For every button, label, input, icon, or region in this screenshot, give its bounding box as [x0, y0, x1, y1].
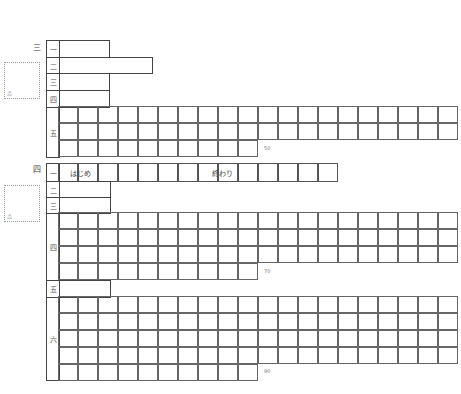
grid-cell[interactable]	[398, 229, 418, 246]
grid-cell[interactable]	[58, 123, 78, 140]
grid-cell[interactable]	[98, 364, 118, 381]
grid-cell[interactable]	[178, 330, 198, 347]
grid-cell[interactable]	[58, 246, 78, 263]
grid-cell[interactable]	[178, 123, 198, 140]
grid-cell[interactable]	[118, 364, 138, 381]
grid-cell[interactable]	[78, 296, 98, 313]
grid-cell[interactable]	[118, 163, 138, 182]
grid-cell[interactable]	[318, 163, 338, 182]
grid-cell[interactable]	[438, 330, 458, 347]
grid-cell[interactable]	[338, 246, 358, 263]
grid-cell[interactable]	[178, 296, 198, 313]
grid-cell[interactable]	[138, 140, 158, 157]
grid-cell[interactable]	[338, 330, 358, 347]
grid-cell[interactable]	[258, 313, 278, 330]
grid-cell[interactable]	[338, 106, 358, 123]
grid-cell[interactable]	[58, 347, 78, 364]
grid-cell[interactable]	[298, 296, 318, 313]
grid-cell[interactable]	[418, 229, 438, 246]
grid-cell[interactable]	[158, 212, 178, 229]
grid-cell[interactable]	[358, 296, 378, 313]
grid-cell[interactable]	[238, 163, 258, 182]
grid-cell[interactable]	[338, 296, 358, 313]
grid-cell[interactable]	[218, 313, 238, 330]
grid-cell[interactable]	[58, 330, 78, 347]
grid-cell[interactable]	[78, 140, 98, 157]
grid-cell[interactable]	[418, 246, 438, 263]
grid-cell[interactable]	[378, 246, 398, 263]
grid-cell[interactable]	[298, 330, 318, 347]
grid-cell[interactable]	[158, 229, 178, 246]
grid-cell[interactable]	[138, 106, 158, 123]
grid-cell[interactable]	[398, 296, 418, 313]
grid-cell[interactable]	[258, 330, 278, 347]
grid-cell[interactable]	[318, 123, 338, 140]
grid-cell[interactable]	[398, 313, 418, 330]
grid-cell[interactable]	[78, 123, 98, 140]
grid-cell[interactable]	[58, 296, 78, 313]
grid-cell[interactable]	[78, 330, 98, 347]
grid-cell[interactable]	[258, 229, 278, 246]
grid-cell[interactable]	[138, 347, 158, 364]
grid-cell[interactable]	[218, 347, 238, 364]
grid-cell[interactable]	[178, 364, 198, 381]
grid-cell[interactable]	[158, 364, 178, 381]
grid-cell[interactable]	[258, 106, 278, 123]
grid-cell[interactable]	[158, 296, 178, 313]
grid-cell[interactable]	[358, 347, 378, 364]
grid-cell[interactable]	[318, 296, 338, 313]
grid-cell[interactable]	[198, 347, 218, 364]
grid-cell[interactable]	[118, 330, 138, 347]
grid-cell[interactable]	[78, 364, 98, 381]
grid-cell[interactable]	[118, 140, 138, 157]
grid-cell[interactable]	[158, 140, 178, 157]
grid-cell[interactable]	[378, 347, 398, 364]
grid-cell[interactable]	[318, 330, 338, 347]
grid-cell[interactable]	[78, 313, 98, 330]
grid-cell[interactable]	[418, 296, 438, 313]
grid-cell[interactable]	[298, 106, 318, 123]
grid-cell[interactable]	[338, 212, 358, 229]
grid-cell[interactable]	[298, 347, 318, 364]
grid-cell[interactable]	[178, 347, 198, 364]
grid-cell[interactable]	[78, 347, 98, 364]
grid-cell[interactable]	[138, 246, 158, 263]
grid-cell[interactable]	[218, 263, 238, 280]
grid-cell[interactable]	[258, 123, 278, 140]
grid-cell[interactable]	[98, 212, 118, 229]
grid-cell[interactable]	[158, 123, 178, 140]
grid-cell[interactable]	[198, 123, 218, 140]
grid-cell[interactable]	[78, 246, 98, 263]
grid-cell[interactable]	[358, 330, 378, 347]
grid-cell[interactable]	[218, 212, 238, 229]
grid-cell[interactable]	[278, 123, 298, 140]
grid-cell[interactable]	[58, 313, 78, 330]
grid-cell[interactable]	[438, 212, 458, 229]
grid-cell[interactable]	[98, 229, 118, 246]
grid-cell[interactable]	[358, 229, 378, 246]
grid-cell[interactable]	[318, 229, 338, 246]
grid-cell[interactable]	[178, 163, 198, 182]
grid-cell[interactable]	[378, 229, 398, 246]
grid-cell[interactable]	[218, 140, 238, 157]
grid-cell[interactable]	[238, 140, 258, 157]
grid-cell[interactable]	[138, 296, 158, 313]
grid-cell[interactable]	[278, 106, 298, 123]
grid-cell[interactable]	[98, 263, 118, 280]
grid-cell[interactable]	[178, 140, 198, 157]
grid-cell[interactable]	[98, 163, 118, 182]
grid-cell[interactable]	[378, 330, 398, 347]
grid-cell[interactable]	[218, 330, 238, 347]
grid-cell[interactable]	[58, 140, 78, 157]
grid-cell[interactable]	[258, 212, 278, 229]
grid-cell[interactable]	[418, 106, 438, 123]
grid-cell[interactable]	[218, 296, 238, 313]
grid-cell[interactable]	[298, 246, 318, 263]
grid-cell[interactable]	[238, 347, 258, 364]
grid-cell[interactable]	[198, 246, 218, 263]
grid-cell[interactable]	[398, 106, 418, 123]
grid-cell[interactable]	[158, 330, 178, 347]
grid-cell[interactable]	[98, 330, 118, 347]
grid-cell[interactable]	[98, 347, 118, 364]
grid-cell[interactable]	[258, 163, 278, 182]
